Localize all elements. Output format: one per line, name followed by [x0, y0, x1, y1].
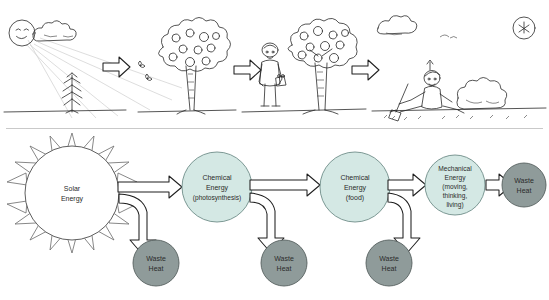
node-waste-heat-1[interactable]: Waste Heat — [133, 240, 179, 286]
node-waste-heat-3[interactable]: Waste Heat — [366, 240, 412, 286]
waste-heat-circle-3[interactable] — [366, 240, 412, 286]
process-arrow-1 — [103, 57, 130, 77]
panel-divider — [6, 128, 543, 129]
scene-resting-person — [372, 16, 546, 121]
waste-heat-circle-1[interactable] — [133, 240, 179, 286]
arrow-food-to-mechanical — [388, 174, 426, 196]
waste-heat-4-line-2: Heat — [517, 187, 532, 194]
cloud-icon-1 — [33, 21, 76, 41]
ground-debris-icon — [384, 115, 527, 120]
butterflies-icon — [139, 61, 153, 81]
farmer-figure-icon — [259, 43, 286, 106]
node-mechanical-energy[interactable]: Mechanical Energy (moving, thinking, liv… — [425, 155, 485, 215]
scene-sun-and-sapling — [4, 20, 182, 118]
sun-icon — [9, 20, 35, 46]
mech-label-line-1: Mechanical — [438, 165, 472, 172]
process-arrow-2 — [234, 60, 261, 80]
chem-photo-label-line-1: Chemical — [202, 174, 232, 181]
illustration-panel — [0, 0, 549, 128]
energy-flow-figure: Solar Energy Chemical Energy (photosynth… — [0, 0, 549, 300]
scene-apple-tree — [138, 18, 236, 115]
mech-label-line-3: (moving, — [442, 183, 467, 191]
solar-energy-circle[interactable] — [25, 146, 119, 240]
sun-rays-icon — [26, 38, 182, 118]
process-arrow-3 — [352, 60, 379, 80]
waste-heat-1-line-2: Heat — [149, 265, 164, 272]
chem-food-label-line-2: Energy — [344, 184, 367, 192]
chem-photo-label-line-3: (photosynthesis) — [193, 194, 241, 202]
resting-person-icon — [390, 60, 464, 113]
node-waste-heat-2[interactable]: Waste Heat — [261, 240, 307, 286]
bush-icon — [457, 78, 507, 110]
solar-energy-label-line-1: Solar — [64, 185, 81, 192]
mech-label-line-2: Energy — [445, 174, 467, 182]
waste-heat-4-line-1: Waste — [514, 177, 534, 184]
chem-food-label-line-3: (food) — [346, 194, 364, 202]
chem-food-label-line-1: Chemical — [340, 174, 370, 181]
waste-heat-2-line-2: Heat — [277, 265, 292, 272]
shovel-icon — [389, 84, 408, 121]
mech-label-line-5: living) — [446, 201, 463, 209]
arrow-photosynthesis-to-food — [250, 174, 320, 196]
energy-flow-diagram: Solar Energy Chemical Energy (photosynth… — [0, 130, 549, 300]
node-waste-heat-4[interactable]: Waste Heat — [502, 163, 546, 207]
solar-energy-label-line-2: Energy — [61, 195, 84, 203]
node-chemical-energy-photosynthesis[interactable]: Chemical Energy (photosynthesis) — [182, 152, 252, 222]
waste-heat-circle-4[interactable] — [502, 163, 546, 207]
waste-heat-circle-2[interactable] — [261, 240, 307, 286]
chem-photo-label-line-2: Energy — [206, 184, 229, 192]
scene-farmer-harvest — [242, 18, 366, 114]
cloud-icon-2 — [377, 16, 417, 35]
waste-heat-3-line-1: Waste — [379, 255, 399, 262]
waste-heat-1-line-1: Waste — [146, 255, 166, 262]
waste-heat-3-line-2: Heat — [382, 265, 397, 272]
waste-heat-2-line-1: Waste — [274, 255, 294, 262]
mech-label-line-4: thinking, — [443, 192, 468, 200]
node-chemical-energy-food[interactable]: Chemical Energy (food) — [320, 152, 390, 222]
node-solar-energy[interactable]: Solar Energy — [7, 133, 137, 253]
sapling-icon — [62, 73, 82, 113]
